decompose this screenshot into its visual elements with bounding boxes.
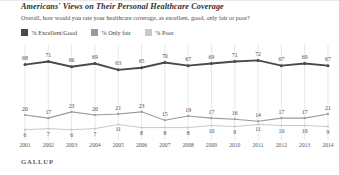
data-point <box>140 111 142 113</box>
data-point <box>117 68 120 71</box>
data-label: 67 <box>185 56 191 62</box>
data-point <box>210 62 213 65</box>
x-tick-label: 2001 <box>19 142 30 148</box>
data-point <box>94 128 96 130</box>
legend-label-excellent-good: % Excellent/Good <box>32 29 78 36</box>
x-tick-label: 2009 <box>206 142 217 148</box>
legend-label-poor: % Poor <box>155 29 173 36</box>
data-label: 67 <box>278 56 284 62</box>
data-label: 63 <box>115 60 121 66</box>
data-point <box>187 64 190 67</box>
data-point <box>47 117 49 119</box>
data-point <box>47 128 49 130</box>
data-label: 17 <box>302 109 308 115</box>
data-label: 21 <box>325 105 331 111</box>
data-label: 19 <box>185 107 191 113</box>
data-point <box>280 117 282 119</box>
data-point <box>94 114 96 116</box>
data-point <box>304 117 306 119</box>
data-point <box>24 63 27 66</box>
data-label: 69 <box>92 54 98 60</box>
data-label: 6 <box>70 132 73 138</box>
data-point <box>164 127 166 129</box>
chart-subtitle: Overall, how would you rate your healthc… <box>21 14 250 21</box>
data-point <box>24 129 26 131</box>
data-point <box>304 124 306 126</box>
data-label: 65 <box>139 58 145 64</box>
legend-label-only-fair: % Only fair <box>102 29 131 36</box>
x-tick-label: 2010 <box>229 142 240 148</box>
x-tick-label: 2007 <box>159 142 170 148</box>
data-point <box>303 62 306 65</box>
chart-title: Americans' Views on Their Personal Healt… <box>21 2 224 11</box>
data-point <box>327 113 329 115</box>
x-tick-label: 2006 <box>136 142 147 148</box>
data-label: 11 <box>255 126 261 132</box>
data-label: 67 <box>325 56 331 62</box>
x-tick-label: 2011 <box>253 142 264 148</box>
data-point <box>24 114 26 116</box>
x-axis: 2001200220032004200520062007200820092010… <box>0 141 339 153</box>
data-label: 23 <box>139 103 145 109</box>
data-label: 7 <box>47 131 50 137</box>
x-tick-label: 2003 <box>66 142 77 148</box>
x-tick-label: 2002 <box>43 142 54 148</box>
legend-item-excellent-good: % Excellent/Good <box>21 29 77 36</box>
data-point <box>327 125 329 127</box>
data-label: 8 <box>187 130 190 136</box>
data-label: 17 <box>209 109 215 115</box>
data-label: 8 <box>140 130 143 136</box>
data-label: 17 <box>45 109 51 115</box>
chart-legend: % Excellent/Good % Only fair % Poor <box>21 29 188 36</box>
data-point <box>187 115 189 117</box>
chart-page: Americans' Views on Their Personal Healt… <box>0 0 339 175</box>
chart-svg: 6871666963657067697172676967201723202123… <box>0 44 339 140</box>
data-point <box>210 117 212 119</box>
data-label: 69 <box>302 54 308 60</box>
legend-swatch-excellent-good <box>21 29 28 36</box>
data-point <box>140 127 142 129</box>
data-point <box>163 61 166 64</box>
data-point <box>117 113 119 115</box>
data-point <box>280 124 282 126</box>
legend-swatch-only-fair <box>91 29 98 36</box>
data-point <box>70 65 73 68</box>
data-label: 14 <box>255 112 261 118</box>
data-label: 10 <box>278 128 284 134</box>
data-label: 23 <box>69 103 75 109</box>
data-label: 71 <box>45 52 51 58</box>
x-tick-label: 2005 <box>113 142 124 148</box>
data-label: 72 <box>255 51 261 57</box>
data-point <box>47 60 50 63</box>
plot-area: 6871666963657067697172676967201723202123… <box>0 44 339 140</box>
x-tick-label: 2004 <box>89 142 100 148</box>
data-label: 71 <box>232 52 238 58</box>
data-label: 21 <box>115 105 121 111</box>
data-point <box>93 62 96 65</box>
data-point <box>210 124 212 126</box>
data-label: 6 <box>24 132 27 138</box>
data-label: 17 <box>278 109 284 115</box>
data-label: 69 <box>209 54 215 60</box>
data-point <box>327 64 330 67</box>
data-point <box>164 119 166 121</box>
x-tick-label: 2012 <box>276 142 287 148</box>
data-label: 9 <box>327 129 330 135</box>
data-label: 66 <box>69 57 75 63</box>
data-point <box>71 111 73 113</box>
data-label: 20 <box>22 106 28 112</box>
x-tick-label: 2008 <box>183 142 194 148</box>
data-point <box>140 66 143 69</box>
data-point <box>187 127 189 129</box>
data-point <box>234 118 236 120</box>
data-label: 15 <box>162 111 168 117</box>
data-label: 20 <box>92 106 98 112</box>
legend-item-poor: % Poor <box>145 29 174 36</box>
data-label: 11 <box>115 126 121 132</box>
data-label: 70 <box>162 53 168 59</box>
data-label: 10 <box>209 128 215 134</box>
data-point <box>234 125 236 127</box>
data-point <box>71 129 73 131</box>
brand-logo: GALLUP <box>21 158 54 165</box>
legend-item-only-fair: % Only fair <box>91 29 131 36</box>
